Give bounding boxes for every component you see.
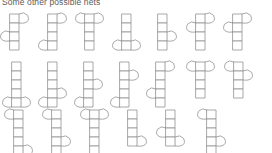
net-square <box>166 128 175 137</box>
net-square <box>48 23 57 32</box>
net-row <box>4 109 225 153</box>
net-flap <box>0 31 10 41</box>
net-figure <box>38 62 66 107</box>
net-square <box>48 98 57 107</box>
net-flap <box>93 79 103 89</box>
net-row <box>2 61 252 107</box>
net-square <box>90 146 99 153</box>
net-square <box>85 23 94 32</box>
net-square <box>48 32 57 41</box>
net-square <box>122 14 131 23</box>
net-square <box>233 41 242 50</box>
net-square <box>233 14 242 23</box>
net-flap <box>99 109 109 119</box>
net-square <box>48 71 57 80</box>
net-square <box>196 23 205 32</box>
net-figure <box>4 109 32 153</box>
net-square <box>207 110 216 119</box>
net-square <box>14 146 23 153</box>
net-square <box>84 62 93 71</box>
net-square <box>196 41 205 50</box>
nets-diagram <box>0 0 272 153</box>
net-flap <box>224 61 234 71</box>
net-square <box>128 137 137 146</box>
net-flap <box>112 40 122 50</box>
net-square <box>52 146 61 153</box>
net-flap <box>223 22 233 32</box>
net-square <box>158 41 167 50</box>
net-figure <box>110 62 138 107</box>
net-figure <box>128 110 147 146</box>
net-square <box>84 71 93 80</box>
net-square <box>158 14 167 23</box>
net-figure <box>80 109 108 153</box>
net-flap <box>23 145 33 153</box>
net-square <box>156 62 165 71</box>
net-flap <box>19 13 29 23</box>
net-flap <box>216 136 226 146</box>
net-square <box>14 110 23 119</box>
net-square <box>14 119 23 128</box>
net-square <box>10 23 19 32</box>
net-flap <box>129 70 139 80</box>
net-flap <box>165 61 175 71</box>
net-flap <box>146 88 156 98</box>
net-figure <box>112 14 140 50</box>
net-figure <box>74 62 102 107</box>
net-square <box>196 80 205 89</box>
net-square <box>128 119 137 128</box>
net-square <box>12 71 21 80</box>
net-flap <box>186 61 196 71</box>
net-flap <box>38 40 48 50</box>
net-square <box>156 89 165 98</box>
net-square <box>90 119 99 128</box>
net-square <box>234 62 243 71</box>
net-figure <box>42 109 70 153</box>
net-square <box>120 62 129 71</box>
net-flap <box>21 97 31 107</box>
net-flap <box>38 97 48 107</box>
net-square <box>10 32 19 41</box>
net-square <box>128 128 137 137</box>
net-flap <box>61 136 71 146</box>
net-square <box>90 137 99 146</box>
net-square <box>48 80 57 89</box>
net-square <box>48 41 57 50</box>
net-square <box>12 89 21 98</box>
net-row <box>0 13 251 50</box>
net-square <box>12 62 21 71</box>
net-square <box>52 128 61 137</box>
net-square <box>52 110 61 119</box>
net-square <box>156 71 165 80</box>
net-square <box>196 89 205 98</box>
net-figure <box>186 13 214 50</box>
net-square <box>234 71 243 80</box>
nets-svg <box>0 0 272 153</box>
net-square <box>52 119 61 128</box>
net-flap <box>197 109 207 119</box>
net-flap <box>57 88 67 98</box>
net-square <box>52 137 61 146</box>
net-square <box>120 89 129 98</box>
net-square <box>14 137 23 146</box>
net-square <box>10 41 19 50</box>
net-figure <box>38 13 66 50</box>
net-flap <box>167 31 177 41</box>
net-flap <box>175 136 185 146</box>
net-figure <box>75 13 103 50</box>
net-square <box>166 137 175 146</box>
net-square <box>122 41 131 50</box>
net-square <box>196 14 205 23</box>
net-figure <box>158 14 177 50</box>
net-figure <box>223 13 251 50</box>
net-square <box>122 23 131 32</box>
net-figure <box>0 13 28 50</box>
net-square <box>120 80 129 89</box>
net-square <box>12 80 21 89</box>
net-figure <box>224 61 252 98</box>
net-square <box>156 98 165 107</box>
net-flap <box>137 136 147 146</box>
net-square <box>120 71 129 80</box>
net-flap <box>42 109 52 119</box>
net-figure <box>2 62 30 107</box>
